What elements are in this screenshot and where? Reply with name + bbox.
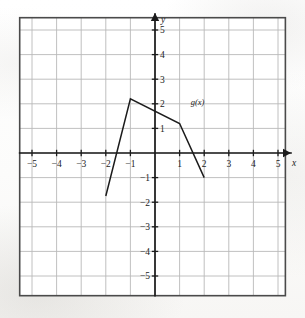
function-curve-label: g(x) bbox=[191, 97, 205, 107]
y-tick-label: −1 bbox=[140, 173, 150, 183]
x-tick-label: −3 bbox=[76, 159, 86, 169]
y-tick-label: 2 bbox=[160, 99, 165, 109]
coordinate-plane-plot: −5−4−3−2−11234554321−1−2−3−4−5yxg(x) bbox=[0, 0, 305, 318]
y-axis-name: y bbox=[160, 15, 166, 25]
x-tick-label: −1 bbox=[125, 159, 135, 169]
x-tick-label: 5 bbox=[276, 159, 281, 169]
x-tick-label: −4 bbox=[52, 159, 62, 169]
x-axis-name: x bbox=[291, 158, 297, 168]
x-tick-label: −5 bbox=[27, 159, 37, 169]
y-tick-label: −3 bbox=[140, 222, 150, 232]
x-axis-arrowhead bbox=[283, 149, 291, 157]
y-tick-label: −4 bbox=[140, 247, 150, 257]
y-tick-label: 1 bbox=[160, 124, 165, 134]
x-tick-label: −2 bbox=[101, 159, 111, 169]
grid-background bbox=[20, 18, 286, 296]
y-tick-label: 3 bbox=[160, 75, 165, 85]
x-tick-label: 2 bbox=[202, 159, 207, 169]
y-tick-label: 4 bbox=[160, 50, 165, 60]
y-tick-label: −2 bbox=[140, 198, 150, 208]
x-tick-label: 3 bbox=[226, 159, 231, 169]
graph-figure: −5−4−3−2−11234554321−1−2−3−4−5yxg(x) bbox=[0, 0, 305, 318]
y-tick-label: 5 bbox=[160, 25, 165, 35]
y-tick-label: −5 bbox=[140, 271, 150, 281]
x-tick-label: 4 bbox=[251, 159, 256, 169]
x-tick-label: 1 bbox=[177, 159, 182, 169]
